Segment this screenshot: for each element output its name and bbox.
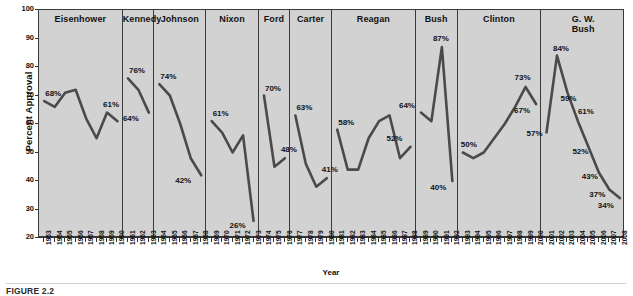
x-tick-label-1996: 1996	[496, 230, 503, 245]
x-tick-mark-2001	[546, 237, 547, 242]
x-tick-label-1959: 1959	[109, 230, 116, 245]
x-tick-label-1978: 1978	[308, 230, 315, 245]
x-tick-mark-1967	[190, 237, 191, 242]
panel-title: Carter	[290, 14, 331, 24]
x-tick-label-1957: 1957	[88, 230, 95, 245]
chart-plot-area: Eisenhower68%61%Kennedy76%64%Johnson74%4…	[38, 9, 624, 237]
x-tick-label-1968: 1968	[203, 230, 210, 245]
x-tick-label-1999: 1999	[528, 230, 535, 245]
x-tick-label-1980: 1980	[329, 230, 336, 245]
x-tick-mark-1983	[357, 237, 358, 242]
x-tick-mark-1958	[96, 237, 97, 242]
x-tick-mark-1965	[169, 237, 170, 242]
x-tick-label-1973: 1973	[256, 230, 263, 245]
panel-title: Eisenhower	[39, 14, 122, 24]
x-tick-label-2003: 2003	[569, 230, 576, 245]
x-tick-mark-2006	[598, 237, 599, 242]
data-label: 70%	[265, 85, 281, 93]
data-label: 37%	[589, 191, 605, 199]
data-label: 59%	[560, 95, 576, 103]
x-tick-mark-1980	[326, 237, 327, 242]
x-tick-label-1983: 1983	[360, 230, 367, 245]
x-tick-mark-1973	[253, 237, 254, 242]
data-label: 61%	[578, 108, 594, 116]
x-tick-label-1972: 1972	[245, 230, 252, 245]
data-label: 87%	[433, 35, 449, 43]
data-label: 61%	[213, 110, 229, 118]
x-tick-mark-1961	[127, 237, 128, 242]
x-tick-label-1981: 1981	[339, 230, 346, 245]
x-tick-mark-2004	[577, 237, 578, 242]
data-label: 73%	[515, 74, 531, 82]
data-label: 64%	[399, 102, 415, 110]
x-tick-label-2007: 2007	[611, 230, 618, 245]
x-tick-label-1995: 1995	[486, 230, 493, 245]
data-label: 52%	[386, 135, 402, 143]
data-label: 43%	[582, 173, 598, 181]
president-panel-nixon: Nixon	[206, 10, 258, 236]
panel-title: Reagan	[332, 14, 415, 24]
x-tick-label-1990: 1990	[433, 230, 440, 245]
x-tick-mark-1959	[106, 237, 107, 242]
data-label: 68%	[45, 90, 61, 98]
x-tick-label-1969: 1969	[214, 230, 221, 245]
x-tick-label-1965: 1965	[172, 230, 179, 245]
x-tick-label-1977: 1977	[297, 230, 304, 245]
president-panel-johnson: Johnson	[154, 10, 206, 236]
x-tick-label-1954: 1954	[57, 230, 64, 245]
x-tick-mark-1954	[54, 237, 55, 242]
x-tick-label-2006: 2006	[601, 230, 608, 245]
x-tick-label-1970: 1970	[224, 230, 231, 245]
data-label: 50%	[461, 141, 477, 149]
data-label: 64%	[123, 115, 139, 123]
x-tick-label-1955: 1955	[67, 230, 74, 245]
x-tick-label-1963: 1963	[151, 230, 158, 245]
y-tick-label-40: 40	[8, 176, 34, 184]
panel-title: Bush	[416, 14, 457, 24]
x-axis-title: Year	[38, 268, 624, 277]
x-tick-mark-1963	[148, 237, 149, 242]
x-tick-label-1976: 1976	[287, 230, 294, 245]
x-tick-mark-1986	[389, 237, 390, 242]
x-tick-label-1986: 1986	[392, 230, 399, 245]
president-panel-kennedy: Kennedy	[123, 10, 154, 236]
panel-title: Kennedy	[123, 14, 153, 24]
x-tick-label-1991: 1991	[444, 230, 451, 245]
data-label: 42%	[175, 177, 191, 185]
x-tick-mark-1976	[284, 237, 285, 242]
x-tick-label-1966: 1966	[182, 230, 189, 245]
y-tick-label-90: 90	[8, 34, 34, 42]
x-tick-mark-1995	[483, 237, 484, 242]
data-label: 58%	[338, 119, 354, 127]
x-tick-label-2002: 2002	[559, 230, 566, 245]
x-tick-label-2005: 2005	[590, 230, 597, 245]
data-label: 26%	[230, 222, 246, 230]
panel-title: G. W.Bush	[541, 14, 624, 34]
y-tick-label-80: 80	[8, 62, 34, 70]
x-tick-mark-1969	[211, 237, 212, 242]
panel-title: Clinton	[458, 14, 541, 24]
x-tick-mark-1978	[305, 237, 306, 242]
x-tick-mark-1997	[504, 237, 505, 242]
x-tick-label-1984: 1984	[371, 230, 378, 245]
x-tick-mark-2008	[619, 237, 620, 242]
data-label: 52%	[572, 148, 588, 156]
x-tick-mark-1985	[378, 237, 379, 242]
x-tick-label-1987: 1987	[402, 230, 409, 245]
data-label: 57%	[527, 130, 543, 138]
x-tick-mark-1987	[399, 237, 400, 242]
x-tick-mark-1972	[242, 237, 243, 242]
x-tick-mark-1993	[462, 237, 463, 242]
panel-title: Nixon	[206, 14, 257, 24]
x-tick-label-1971: 1971	[235, 230, 242, 245]
y-tick-label-70: 70	[8, 91, 34, 99]
x-tick-mark-1999	[525, 237, 526, 242]
x-tick-label-1958: 1958	[99, 230, 106, 245]
x-tick-label-1998: 1998	[517, 230, 524, 245]
y-axis-ticks: 2030405060708090100	[4, 0, 34, 296]
president-panel-bush: Bush	[416, 10, 458, 236]
x-tick-label-1956: 1956	[78, 230, 85, 245]
x-tick-label-1982: 1982	[350, 230, 357, 245]
president-panel-ford: Ford	[259, 10, 290, 236]
x-tick-mark-1989	[420, 237, 421, 242]
